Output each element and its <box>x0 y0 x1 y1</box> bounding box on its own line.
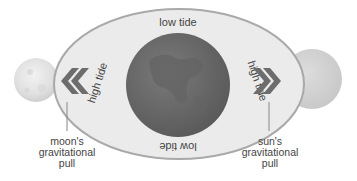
moon-caption-line-3: pull <box>12 158 122 169</box>
label-bottom-low-tide: low tide <box>159 141 196 153</box>
tides-diagram: low tide low tide high tide high tide mo… <box>0 0 357 181</box>
sun-caption: sun's gravitational pull <box>215 136 325 169</box>
earth <box>126 33 230 137</box>
sun-caption-line-3: pull <box>215 158 325 169</box>
moon-caption: moon's gravitational pull <box>12 136 122 169</box>
moon <box>14 58 58 102</box>
label-top-low-tide: low tide <box>159 16 196 28</box>
moon-disk <box>14 58 58 102</box>
